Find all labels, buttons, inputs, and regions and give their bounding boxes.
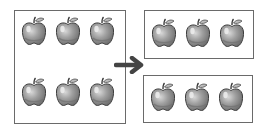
apple-icon (55, 16, 81, 46)
apple-icon (218, 82, 244, 112)
apple-icon (89, 16, 115, 46)
apple-icon (219, 18, 245, 48)
apple-icon (184, 82, 210, 112)
apple-icon (185, 18, 211, 48)
apple-icon (21, 16, 47, 46)
apple-icon (150, 82, 176, 112)
apple-icon (55, 77, 81, 107)
apple-icon (89, 77, 115, 107)
apple-icon (21, 77, 47, 107)
source-group-box (14, 10, 126, 124)
right-arrow-icon (114, 56, 144, 74)
apple-icon (151, 18, 177, 48)
target-group-box-1 (144, 10, 254, 59)
target-group-box-2 (143, 75, 253, 123)
